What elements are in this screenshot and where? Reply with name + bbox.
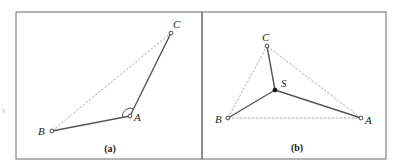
point-a (128, 114, 132, 118)
label-a: A (133, 111, 141, 123)
label-b: B (215, 113, 222, 125)
point-c (265, 44, 269, 48)
figure: s A B C (a) (0, 0, 400, 166)
panel-b: A B C S (b) (202, 12, 386, 159)
dashed-edge-bc (52, 33, 171, 131)
edge-fragment: s (2, 105, 6, 115)
point-c (169, 31, 173, 35)
label-s: S (281, 77, 287, 89)
label-a: A (364, 114, 372, 126)
caption-a: (a) (104, 143, 116, 155)
panel-b-frame (202, 12, 386, 159)
label-c: C (262, 31, 270, 43)
solid-edge-bs (228, 90, 275, 118)
dashed-edge-bc (228, 46, 267, 118)
label-c: C (173, 18, 181, 30)
diagram-canvas: s A B C (a) (0, 0, 400, 166)
solid-edge-ba (52, 116, 130, 131)
point-b (50, 129, 54, 133)
panel-a: A B C (a) (16, 12, 202, 159)
solid-edge-ac (130, 33, 171, 116)
solid-edge-sa (275, 90, 361, 118)
point-b (226, 116, 230, 120)
solid-edge-cs (267, 46, 275, 90)
caption-b: (b) (291, 142, 303, 154)
point-a (359, 116, 363, 120)
point-s (273, 88, 277, 92)
label-b: B (38, 125, 45, 137)
